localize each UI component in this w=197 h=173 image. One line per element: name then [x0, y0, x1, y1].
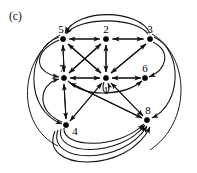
node-2-label: 2 — [103, 23, 109, 35]
curve-left-outer-sweep — [27, 35, 60, 146]
node-4-label: 4 — [72, 125, 78, 137]
panel-label-c: (c) — [9, 10, 22, 23]
curve-3-6-right-inner — [149, 42, 165, 77]
curve-3-8-right-outer — [152, 37, 175, 118]
edge-4-7 — [64, 84, 66, 119]
node-6-dot[interactable] — [142, 75, 147, 80]
node-5-label: 5 — [58, 23, 64, 35]
node-7-dot[interactable] — [61, 75, 66, 80]
node-1-dot[interactable] — [103, 75, 108, 80]
node-3-label: 3 — [147, 23, 153, 35]
node-5-dot[interactable] — [60, 36, 65, 41]
curve-4-8-bottom-3 — [57, 126, 147, 156]
directed-graph-canvas: 1 2 3 4 5 6 7 8 (c) — [0, 0, 197, 173]
node-2-dot[interactable] — [103, 36, 108, 41]
edge-1-3 — [111, 44, 146, 73]
figure-panel-c: 1 2 3 4 5 6 7 8 (c) — [0, 0, 197, 173]
edge-1-4 — [70, 83, 102, 121]
curve-5-4-left-outer — [34, 37, 62, 124]
curve-5-7-left-mid — [40, 40, 60, 77]
node-8-dot[interactable] — [144, 117, 149, 122]
node-7-label: 7 — [59, 62, 65, 74]
curve-right-outer-sweep — [150, 34, 181, 150]
node-8-label: 8 — [145, 104, 151, 116]
node-4-dot[interactable] — [63, 122, 68, 127]
node-3-dot[interactable] — [147, 36, 152, 41]
curve-4-7-left-inner — [43, 79, 62, 122]
node-6-label: 6 — [142, 62, 148, 74]
node-1-label: 1 — [103, 84, 109, 96]
